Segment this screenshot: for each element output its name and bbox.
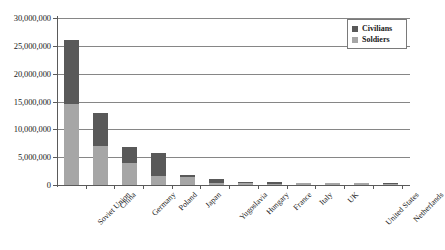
y-axis-tick <box>53 18 57 19</box>
y-axis-tick <box>53 74 57 75</box>
figure-caption <box>4 243 304 250</box>
y-axis-tick <box>53 102 57 103</box>
bar-segment-civilians <box>93 113 108 146</box>
y-axis-labels: 30,000,000 25,000,000 20,000,000 15,000,… <box>0 0 51 250</box>
bar-germany <box>122 147 137 185</box>
x-axis-tick <box>373 185 374 189</box>
x-axis-label-france: France <box>292 191 313 212</box>
bar-soviet-union <box>64 40 79 185</box>
legend-swatch-civilians <box>352 26 358 32</box>
y-axis-line <box>57 16 58 187</box>
y-axis-tick-label: 15,000,000 <box>0 98 51 107</box>
legend-swatch-soldiers <box>352 37 358 43</box>
x-axis-tick <box>287 185 288 189</box>
y-axis-tick-label: 20,000,000 <box>0 70 51 79</box>
x-axis-label-hungary: Hungary <box>265 191 290 216</box>
legend-label-soldiers: Soldiers <box>362 36 390 44</box>
y-axis-tick <box>53 129 57 130</box>
x-axis-label-yugoslavia: Yugoslavia <box>238 191 269 222</box>
y-axis-tick-label: 0 <box>0 181 51 190</box>
x-axis-tick <box>172 185 173 189</box>
bar-segment-soldiers <box>151 176 166 185</box>
x-axis-label-japan: Japan <box>204 191 223 210</box>
x-axis-tick <box>344 185 345 189</box>
bar-segment-soldiers <box>180 177 195 185</box>
x-axis-tick <box>143 185 144 189</box>
bar-china <box>93 113 108 185</box>
bar-segment-soldiers <box>64 104 79 185</box>
bar-segment-civilians <box>122 147 137 163</box>
y-axis-tick-label: 30,000,000 <box>0 14 51 23</box>
legend-item-soldiers[interactable]: Soldiers <box>352 34 403 45</box>
y-axis-tick <box>53 46 57 47</box>
x-axis-tick <box>114 185 115 189</box>
bar-segment-soldiers <box>93 146 108 185</box>
y-axis-tick <box>53 157 57 158</box>
gridline <box>57 129 410 130</box>
gridline <box>57 102 410 103</box>
x-axis-label-germany: Germany <box>151 191 178 218</box>
gridline <box>57 74 410 75</box>
legend-item-civilians[interactable]: Civilians <box>352 23 403 34</box>
legend-label-civilians: Civilians <box>362 25 392 33</box>
y-axis-tick <box>53 185 57 186</box>
x-axis-tick <box>200 185 201 189</box>
x-axis-label-italy: Italy <box>318 191 334 207</box>
chart-legend: Civilians Soldiers <box>347 19 407 49</box>
x-axis-tick <box>402 185 403 189</box>
y-axis-tick-label: 10,000,000 <box>0 125 51 134</box>
bar-japan <box>180 175 195 185</box>
x-axis-tick <box>229 185 230 189</box>
x-axis-tick <box>86 185 87 189</box>
x-axis-tick <box>315 185 316 189</box>
x-axis-tick <box>258 185 259 189</box>
gridline <box>57 157 410 158</box>
bar-segment-civilians <box>64 40 79 104</box>
bar-poland <box>151 153 166 185</box>
bar-segment-soldiers <box>122 163 137 185</box>
bar-segment-civilians <box>151 153 166 176</box>
x-axis-label-uk: UK <box>346 191 360 205</box>
x-axis-line <box>57 185 410 186</box>
y-axis-tick-label: 5,000,000 <box>0 153 51 162</box>
x-axis-label-poland: Poland <box>178 191 199 212</box>
y-axis-tick-label: 25,000,000 <box>0 42 51 51</box>
